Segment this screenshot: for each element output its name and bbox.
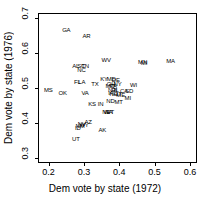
data-point-label: TX	[91, 81, 98, 87]
x-tick-mark	[155, 163, 156, 166]
y-tick-mark	[35, 123, 38, 124]
data-point-label: ND	[106, 98, 114, 104]
scatter-plot-figure: GAARWVMAMNMIALSCTNNCKYMDDEFLLATXOHNYWIMO…	[0, 0, 210, 206]
data-point-label: AR	[82, 33, 90, 39]
x-axis-title: Dem vote by state (1972)	[0, 183, 210, 194]
y-tick-mark	[35, 53, 38, 54]
data-point-label: AK	[98, 127, 106, 133]
x-tick-mark	[119, 163, 120, 166]
y-tick-mark	[35, 18, 38, 19]
y-axis-title: Dem vote by state (1976)	[2, 13, 14, 163]
data-point-label: MT	[114, 99, 122, 105]
data-point-label: VA	[81, 90, 88, 96]
y-tick-mark	[35, 158, 38, 159]
data-point-label: WI	[130, 82, 137, 88]
data-point-label: KS	[88, 101, 96, 107]
data-point-label: IN	[98, 101, 104, 107]
x-tick-label: 0.3	[78, 167, 91, 177]
data-point-label: OK	[59, 90, 67, 96]
x-tick-label: 0.2	[42, 167, 55, 177]
data-point-label: MA	[166, 58, 175, 64]
data-point-label: WV	[102, 57, 111, 63]
data-point-label: MS	[44, 87, 53, 93]
y-tick-label: 0.3	[20, 147, 30, 160]
y-tick-label: 0.6	[20, 42, 30, 55]
data-point-label: ID	[75, 125, 81, 131]
x-tick-label: 0.4	[113, 167, 126, 177]
y-tick-label: 0.4	[20, 112, 30, 125]
data-point-label: WA	[103, 109, 112, 115]
data-point-label: MI	[125, 95, 131, 101]
data-point-label: UT	[72, 136, 80, 142]
data-point-label: NC	[77, 67, 85, 73]
x-tick-label: 0.5	[148, 167, 161, 177]
x-tick-mark	[49, 163, 50, 166]
y-tick-mark	[35, 88, 38, 89]
data-point-label: GA	[62, 27, 70, 33]
data-point-label: SD	[125, 88, 133, 94]
data-point-label: MI	[141, 60, 147, 66]
x-tick-mark	[190, 163, 191, 166]
y-tick-label: 0.5	[20, 77, 30, 90]
y-tick-label: 0.7	[20, 7, 30, 20]
data-point-label: LA	[78, 79, 85, 85]
x-tick-mark	[84, 163, 85, 166]
x-tick-label: 0.6	[184, 167, 197, 177]
